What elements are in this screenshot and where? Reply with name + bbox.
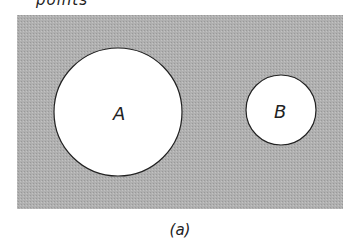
venn-diagram: A B xyxy=(0,0,360,248)
set-a-label: A xyxy=(112,103,125,124)
figure-caption: (a) xyxy=(0,221,360,239)
set-b-label: B xyxy=(274,101,286,122)
